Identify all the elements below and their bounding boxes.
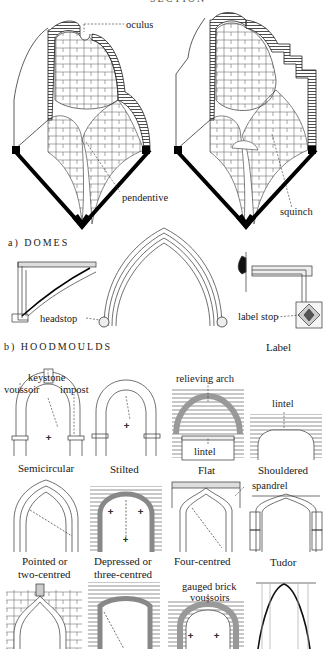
caption-label: Label: [266, 341, 291, 353]
hoodmould-pointed-drawing: [99, 228, 227, 327]
arch-row2-leader-lines: [234, 487, 244, 497]
label-pendentive: pendentive: [122, 192, 168, 204]
section-heading-hoodmoulds: b) HOODMOULDS: [4, 341, 112, 352]
arch-ogee-drawing: [6, 584, 82, 649]
arch-pointed-drawing: [14, 480, 78, 552]
arch-shouldered-drawing: [250, 414, 322, 460]
label-gauged-brick-line2: voussoirs: [190, 592, 230, 604]
caption-stilted: Stilted: [110, 463, 139, 475]
label-label-stop: label stop: [238, 311, 279, 323]
arch-tudor-drawing: [250, 494, 322, 552]
label-voussoir: voussoir: [4, 384, 40, 396]
caption-four-centred: Four-centred: [174, 555, 231, 567]
label-headstop: headstop: [40, 313, 77, 325]
caption-flat: Flat: [198, 464, 215, 476]
label-relieving-arch: relieving arch: [176, 373, 234, 385]
label-squinch: squinch: [280, 206, 313, 218]
arch-depressed-drawing: + + +: [90, 486, 162, 552]
dome-squinch-drawing: [174, 13, 316, 231]
svg-text:+: +: [138, 506, 143, 516]
label-spandrel: spandrel: [252, 480, 288, 492]
label-shouldered-lintel: lintel: [272, 398, 294, 410]
svg-text:+: +: [46, 432, 51, 442]
caption-depressed-line2: three-centred: [94, 568, 152, 580]
caption-pointed-line2: two-centred: [18, 568, 71, 580]
arch-stilted-drawing: +: [92, 380, 160, 456]
caption-shouldered: Shouldered: [258, 464, 308, 476]
label-keystone: keystone: [28, 372, 65, 384]
section-heading-domes: a) DOMES: [8, 237, 69, 248]
arch-parabolic-drawing: [256, 583, 316, 649]
svg-text:+: +: [108, 506, 113, 516]
caption-tudor: Tudor: [270, 556, 297, 568]
label-impost: impost: [60, 384, 89, 396]
arch-four-centred-drawing: [172, 482, 240, 552]
svg-text:+: +: [188, 630, 193, 640]
label-oculus: oculus: [126, 19, 153, 31]
svg-text:+: +: [124, 420, 129, 430]
svg-text:+: +: [123, 534, 128, 544]
label-flat-lintel: lintel: [194, 446, 216, 458]
caption-depressed-line1: Depressed or: [94, 555, 152, 567]
caption-semicircular: Semicircular: [18, 462, 74, 474]
svg-text:+: +: [214, 630, 219, 640]
caption-pointed-line1: Pointed or: [22, 555, 68, 567]
arch-segmental-drawing: [88, 582, 160, 649]
